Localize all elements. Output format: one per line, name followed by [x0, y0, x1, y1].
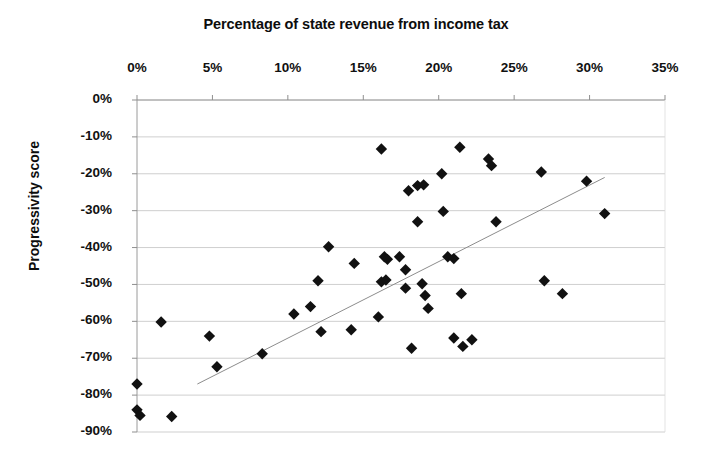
- data-point-marker: [490, 216, 501, 227]
- data-point-marker: [323, 241, 334, 252]
- data-point-marker: [376, 143, 387, 154]
- data-point-marker: [305, 301, 316, 312]
- data-point-marker: [422, 303, 433, 314]
- data-point-marker: [155, 316, 166, 327]
- data-point-marker: [599, 208, 610, 219]
- data-point-marker: [204, 330, 215, 341]
- data-point-marker: [536, 166, 547, 177]
- data-point-marker: [131, 378, 142, 389]
- data-point-marker: [400, 264, 411, 275]
- axis-lines: [137, 100, 665, 432]
- data-point-marker: [457, 341, 468, 352]
- data-point-marker: [166, 411, 177, 422]
- data-point-marker: [438, 206, 449, 217]
- data-point-marker: [436, 168, 447, 179]
- data-point-marker: [448, 332, 459, 343]
- data-point-marker: [557, 288, 568, 299]
- data-point-marker: [419, 290, 430, 301]
- data-point-marker: [288, 308, 299, 319]
- data-point-marker: [403, 185, 414, 196]
- data-point-marker: [315, 326, 326, 337]
- data-point-marker: [211, 361, 222, 372]
- data-point-marker: [346, 324, 357, 335]
- data-point-marker: [416, 278, 427, 289]
- scatter-chart: Percentage of state revenue from income …: [0, 0, 712, 462]
- data-point-marker: [349, 258, 360, 269]
- data-point-marker: [466, 334, 477, 345]
- data-points: [131, 142, 610, 423]
- gridlines: [137, 100, 665, 432]
- data-point-marker: [394, 251, 405, 262]
- axis-tick-marks: [132, 95, 665, 432]
- data-point-marker: [456, 288, 467, 299]
- data-point-marker: [406, 343, 417, 354]
- data-point-marker: [454, 142, 465, 153]
- plot-area: [0, 0, 712, 462]
- data-point-marker: [412, 216, 423, 227]
